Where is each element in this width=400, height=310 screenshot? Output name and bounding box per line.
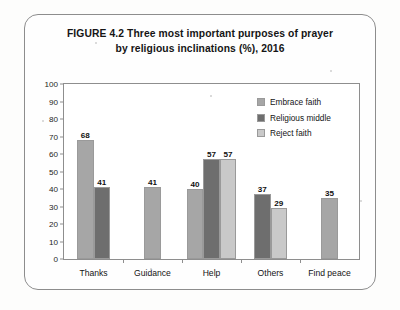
chart-plot-wrapper: 0102030405060708090100 ThanksGuidanceHel… [0,0,400,310]
scan-speckle [330,70,332,72]
bar: 40 [187,189,204,259]
y-axis-tick-mark [60,224,64,225]
x-axis-category-label: Guidance [134,268,171,278]
x-axis-category-label: Find peace [308,268,351,278]
y-axis-tick-mark [60,136,64,137]
y-axis-tick-mark [60,154,64,155]
y-axis-tick-mark [60,119,64,120]
bar: 41 [144,187,161,259]
plot-area: 0102030405060708090100 ThanksGuidanceHel… [63,83,360,260]
x-axis-category-label: Others [258,268,284,278]
legend-swatch-icon [257,114,265,122]
y-axis-tick-mark [60,101,64,102]
bar-value-label: 57 [223,150,232,159]
legend-swatch-icon [257,98,265,106]
bar-value-label: 37 [258,185,267,194]
scan-speckle [42,120,44,122]
bar: 41 [94,187,111,259]
bar: 68 [77,140,94,259]
bar-value-label: 35 [325,189,334,198]
y-axis-tick-mark [60,189,64,190]
x-axis-tick-mark [300,259,301,263]
y-axis-tick-mark [60,206,64,207]
bar: 57 [203,159,220,259]
x-axis-category-label: Thanks [79,268,107,278]
legend-item: Religious middle [257,113,331,123]
bar: 37 [254,194,271,259]
legend-item: Reject faith [257,128,331,138]
bar: 29 [271,208,288,259]
bar-value-label: 41 [148,178,157,187]
legend-item: Embrace faith [257,97,331,107]
legend-label: Religious middle [270,113,331,123]
y-axis-tick-mark [60,84,64,85]
bar: 35 [321,198,338,259]
y-axis-tick-mark [60,171,64,172]
x-axis-tick-mark [182,259,183,263]
bar-value-label: 68 [81,131,90,140]
y-axis-tick-mark [60,241,64,242]
scan-speckle [210,95,212,97]
legend-label: Embrace faith [270,97,321,107]
bar: 57 [220,159,237,259]
bar-value-label: 40 [190,180,199,189]
y-axis-tick-mark [60,259,64,260]
x-axis-category-label: Help [203,268,221,278]
legend-swatch-icon [257,129,265,137]
x-axis-tick-mark [123,259,124,263]
bar-value-label: 41 [97,178,106,187]
chart-legend: Embrace faithReligious middleReject fait… [257,97,331,144]
legend-label: Reject faith [270,128,312,138]
x-axis-tick-mark [241,259,242,263]
bar-value-label: 29 [274,199,283,208]
bar-value-label: 57 [207,150,216,159]
